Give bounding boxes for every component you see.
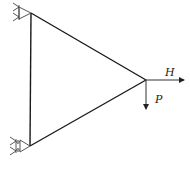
roller-support-icon xyxy=(10,137,30,155)
loads xyxy=(146,80,184,109)
member-upper-diagonal xyxy=(31,13,146,80)
member-lower-diagonal xyxy=(30,80,146,146)
load-label-h: H xyxy=(164,66,175,79)
load-label-p: P xyxy=(154,93,163,106)
member-vertical xyxy=(30,13,31,146)
pin-support-icon xyxy=(13,3,31,21)
truss-members xyxy=(30,13,146,146)
truss-diagram: H P xyxy=(0,0,190,169)
